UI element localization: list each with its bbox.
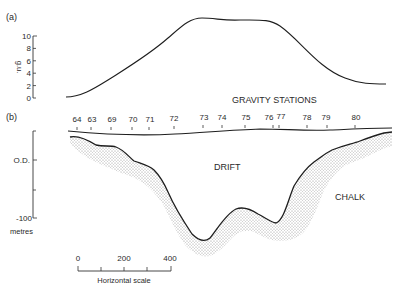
scale-tick-400: 400 bbox=[163, 254, 177, 263]
station-label: 77 bbox=[277, 112, 286, 121]
gravity-profile-diagram: (a) 10 8 6 4 2 0 g.u. GRAVITY STATIONS (… bbox=[0, 0, 396, 289]
station-label: 74 bbox=[218, 113, 227, 122]
station-label: 69 bbox=[108, 115, 117, 124]
y-tick-0: 0 bbox=[27, 94, 32, 103]
station-label: 71 bbox=[146, 115, 155, 124]
panel-a-label: (a) bbox=[6, 12, 17, 22]
drift-label: DRIFT bbox=[214, 162, 241, 172]
station-label: 75 bbox=[242, 113, 251, 122]
station-label: 63 bbox=[88, 115, 97, 124]
od-label: O.D. bbox=[14, 156, 30, 165]
station-label: 76 bbox=[265, 113, 274, 122]
station-label: 80 bbox=[352, 113, 361, 122]
station-label: 78 bbox=[303, 113, 312, 122]
gravity-y-ticks bbox=[33, 36, 37, 98]
panel-a: (a) 10 8 6 4 2 0 g.u. GRAVITY STATIONS bbox=[6, 12, 386, 105]
panel-b: (b) 64 63 69 70 71 72 73 74 75 76 77 78 … bbox=[6, 112, 392, 285]
scale-caption: Horizontal scale bbox=[97, 276, 150, 285]
station-label: 79 bbox=[322, 113, 331, 122]
depth-unit-label: metres bbox=[10, 227, 33, 236]
horizontal-scale-bar bbox=[78, 266, 171, 271]
gravity-anomaly-curve bbox=[66, 18, 386, 97]
y-axis-unit: g.u. bbox=[15, 61, 24, 74]
scale-tick-0: 0 bbox=[76, 254, 81, 263]
gravity-stations-caption: GRAVITY STATIONS bbox=[232, 95, 317, 105]
station-label: 73 bbox=[200, 113, 209, 122]
station-labels: 64 63 69 70 71 72 73 74 75 76 77 78 79 8… bbox=[73, 112, 361, 124]
panel-b-label: (b) bbox=[6, 112, 17, 122]
station-label: 72 bbox=[170, 114, 179, 123]
y-tick-10: 10 bbox=[22, 32, 31, 41]
y-tick-2: 2 bbox=[27, 82, 32, 91]
depth-bottom-label: -100 bbox=[16, 214, 33, 223]
scale-tick-200: 200 bbox=[117, 254, 131, 263]
chalk-label: CHALK bbox=[335, 192, 365, 202]
station-label: 70 bbox=[129, 115, 138, 124]
y-tick-8: 8 bbox=[27, 44, 32, 53]
ground-surface-line bbox=[68, 128, 392, 135]
y-tick-6: 6 bbox=[27, 57, 32, 66]
depth-ticks bbox=[33, 131, 37, 218]
y-tick-4: 4 bbox=[27, 69, 32, 78]
station-ticks bbox=[77, 125, 355, 130]
station-label: 64 bbox=[73, 115, 82, 124]
